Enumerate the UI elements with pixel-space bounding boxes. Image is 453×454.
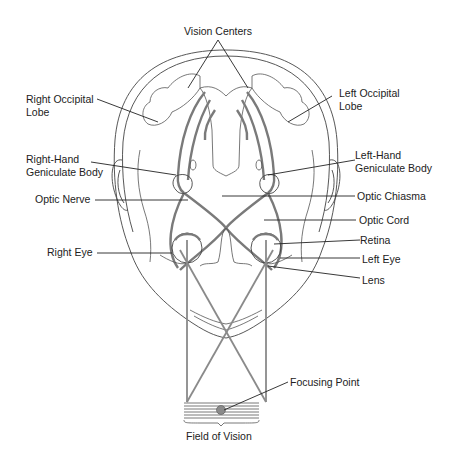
label-left-geniculate-body-line2: Geniculate Body <box>355 162 433 174</box>
label-retina: Retina <box>360 234 391 246</box>
label-field-of-vision: Field of Vision <box>186 430 252 442</box>
label-right-occipital-lobe-line2: Lobe <box>26 106 50 118</box>
label-right-geniculate-body-line1: Right-Hand <box>26 153 79 165</box>
left-eye <box>251 233 292 264</box>
central-fissure <box>200 87 252 176</box>
label-right-geniculate-body-line2: Geniculate Body <box>26 166 104 178</box>
light-rays <box>180 240 273 402</box>
label-optic-cord: Optic Cord <box>359 214 409 226</box>
field-of-vision <box>184 403 259 426</box>
head-outline <box>114 50 338 338</box>
label-lens: Lens <box>362 274 385 286</box>
right-geniculate-body <box>173 160 196 193</box>
label-left-eye: Left Eye <box>362 253 401 265</box>
visual-pathway-diagram: Vision Centers Right Occipital Lobe Left… <box>0 0 453 454</box>
label-left-occipital-lobe-line1: Left Occipital <box>339 87 400 99</box>
left-geniculate-body <box>256 160 279 193</box>
label-optic-nerve: Optic Nerve <box>35 193 91 205</box>
right-eye <box>160 233 202 264</box>
label-right-occipital-lobe-line1: Right Occipital <box>26 93 94 105</box>
label-focusing-point: Focusing Point <box>290 376 360 388</box>
label-right-eye: Right Eye <box>47 246 93 258</box>
label-optic-chiasma: Optic Chiasma <box>357 190 426 202</box>
label-vision-centers: Vision Centers <box>184 25 252 37</box>
label-left-geniculate-body-line1: Left-Hand <box>355 149 401 161</box>
label-left-occipital-lobe-line2: Lobe <box>339 100 363 112</box>
